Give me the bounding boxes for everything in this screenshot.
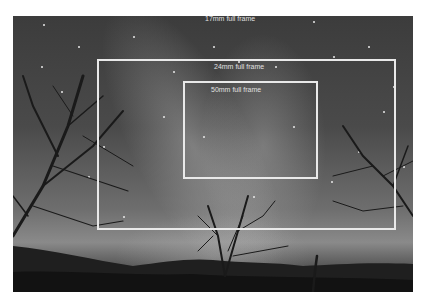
frame-50mm [183,81,318,179]
frame-label-17mm: 17mm full frame [205,15,255,23]
frame-label-24mm: 24mm full frame [214,63,264,71]
frame-label-50mm: 50mm full frame [211,86,261,94]
